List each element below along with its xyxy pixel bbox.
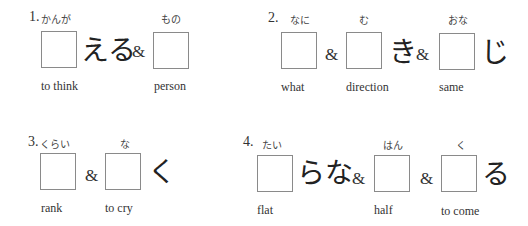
furigana: む <box>359 12 369 27</box>
meaning-label: flat <box>257 203 273 218</box>
okurigana: き <box>389 39 417 67</box>
furigana: な <box>120 136 130 151</box>
okurigana: える <box>81 37 136 65</box>
meaning-label: to come <box>441 204 479 219</box>
meaning-label: to cry <box>105 201 133 216</box>
kanji-answer-box[interactable] <box>439 33 475 70</box>
okurigana: く <box>148 159 176 187</box>
meaning-label: rank <box>41 201 62 216</box>
kanji-answer-box[interactable] <box>346 32 382 69</box>
furigana: はん <box>383 137 403 152</box>
kanji-answer-box[interactable] <box>441 155 477 192</box>
furigana: おな <box>448 12 468 27</box>
item-number: 1. <box>29 9 40 25</box>
ampersand: & <box>325 46 338 63</box>
furigana: くらい <box>40 136 70 151</box>
kanji-answer-box[interactable] <box>40 153 76 190</box>
meaning-label: what <box>281 80 304 95</box>
furigana: かんが <box>41 11 71 26</box>
okurigana: じ <box>481 39 509 67</box>
furigana: なに <box>290 12 310 27</box>
furigana: もの <box>161 11 181 26</box>
furigana: たい <box>262 137 282 152</box>
kanji-answer-box[interactable] <box>41 31 77 68</box>
furigana: く <box>456 137 466 152</box>
okurigana: る <box>482 161 510 189</box>
meaning-label: half <box>374 203 393 218</box>
ampersand: & <box>416 46 429 63</box>
meaning-label: same <box>439 80 464 95</box>
item-number: 3. <box>28 134 39 150</box>
kanji-answer-box[interactable] <box>105 153 141 190</box>
item-number: 2. <box>268 10 279 26</box>
meaning-label: person <box>154 79 186 94</box>
meaning-label: to think <box>41 79 78 94</box>
kanji-answer-box[interactable] <box>281 32 317 69</box>
ampersand: & <box>85 167 98 184</box>
item-number: 4. <box>243 134 254 150</box>
ampersand: & <box>132 43 145 60</box>
kanji-answer-box[interactable] <box>374 155 410 192</box>
ampersand: & <box>420 170 433 187</box>
kanji-answer-box[interactable] <box>153 32 189 69</box>
okurigana: らな <box>297 160 353 188</box>
kanji-answer-box[interactable] <box>257 155 293 192</box>
meaning-label: direction <box>346 80 389 95</box>
ampersand: & <box>352 170 365 187</box>
